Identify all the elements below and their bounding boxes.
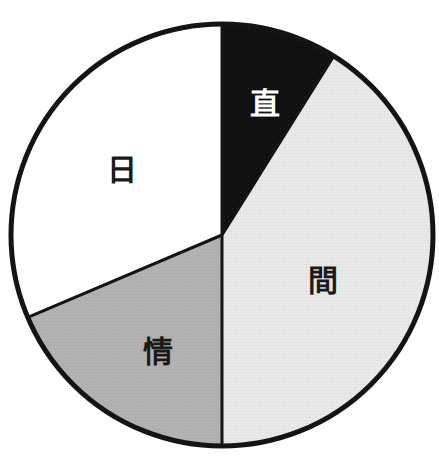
pie-chart-figure: 直 間 情 日	[0, 0, 439, 460]
slice-label-nichi: 日	[107, 152, 137, 187]
pie-chart-svg: 直 間 情 日	[0, 0, 439, 460]
slice-label-choku: 直	[250, 86, 280, 121]
slice-label-kan: 間	[308, 263, 338, 298]
slice-label-jou: 情	[143, 334, 173, 369]
